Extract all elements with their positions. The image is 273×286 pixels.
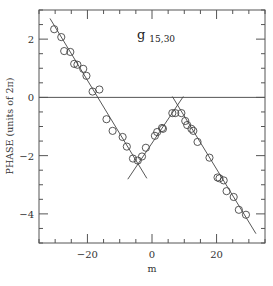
data-point: [188, 125, 195, 132]
axis-tick-labels: −20020−4−202: [19, 34, 223, 260]
y-tick-label: 0: [28, 92, 34, 103]
chart-title: g 15,30: [137, 25, 175, 44]
plot-frame: [39, 10, 265, 243]
y-tick-label: −2: [19, 151, 34, 162]
fit-lines: [50, 18, 256, 233]
data-point: [119, 133, 126, 140]
x-tick-label: 20: [210, 249, 223, 260]
data-point: [138, 153, 145, 160]
data-point: [223, 188, 230, 195]
x-axis-label: m: [147, 263, 156, 274]
fit-line: [50, 18, 147, 178]
y-tick-label: −4: [19, 209, 34, 220]
axis-ticks: [39, 10, 265, 243]
x-tick-label: −20: [77, 249, 98, 260]
data-point: [103, 116, 110, 123]
x-tick-label: 0: [149, 249, 155, 260]
data-point: [109, 127, 116, 134]
title-main: g: [137, 27, 145, 42]
title-subscript: 15,30: [149, 34, 175, 44]
phase-chart: −20020−4−202 g 15,30 m PHASE (units of 2…: [0, 0, 273, 286]
data-point: [96, 86, 103, 93]
y-axis-label: PHASE (units of 2π): [4, 78, 15, 175]
y-tick-label: 2: [28, 34, 34, 45]
data-points: [51, 26, 250, 219]
fit-line: [128, 97, 184, 180]
data-point: [123, 143, 130, 150]
